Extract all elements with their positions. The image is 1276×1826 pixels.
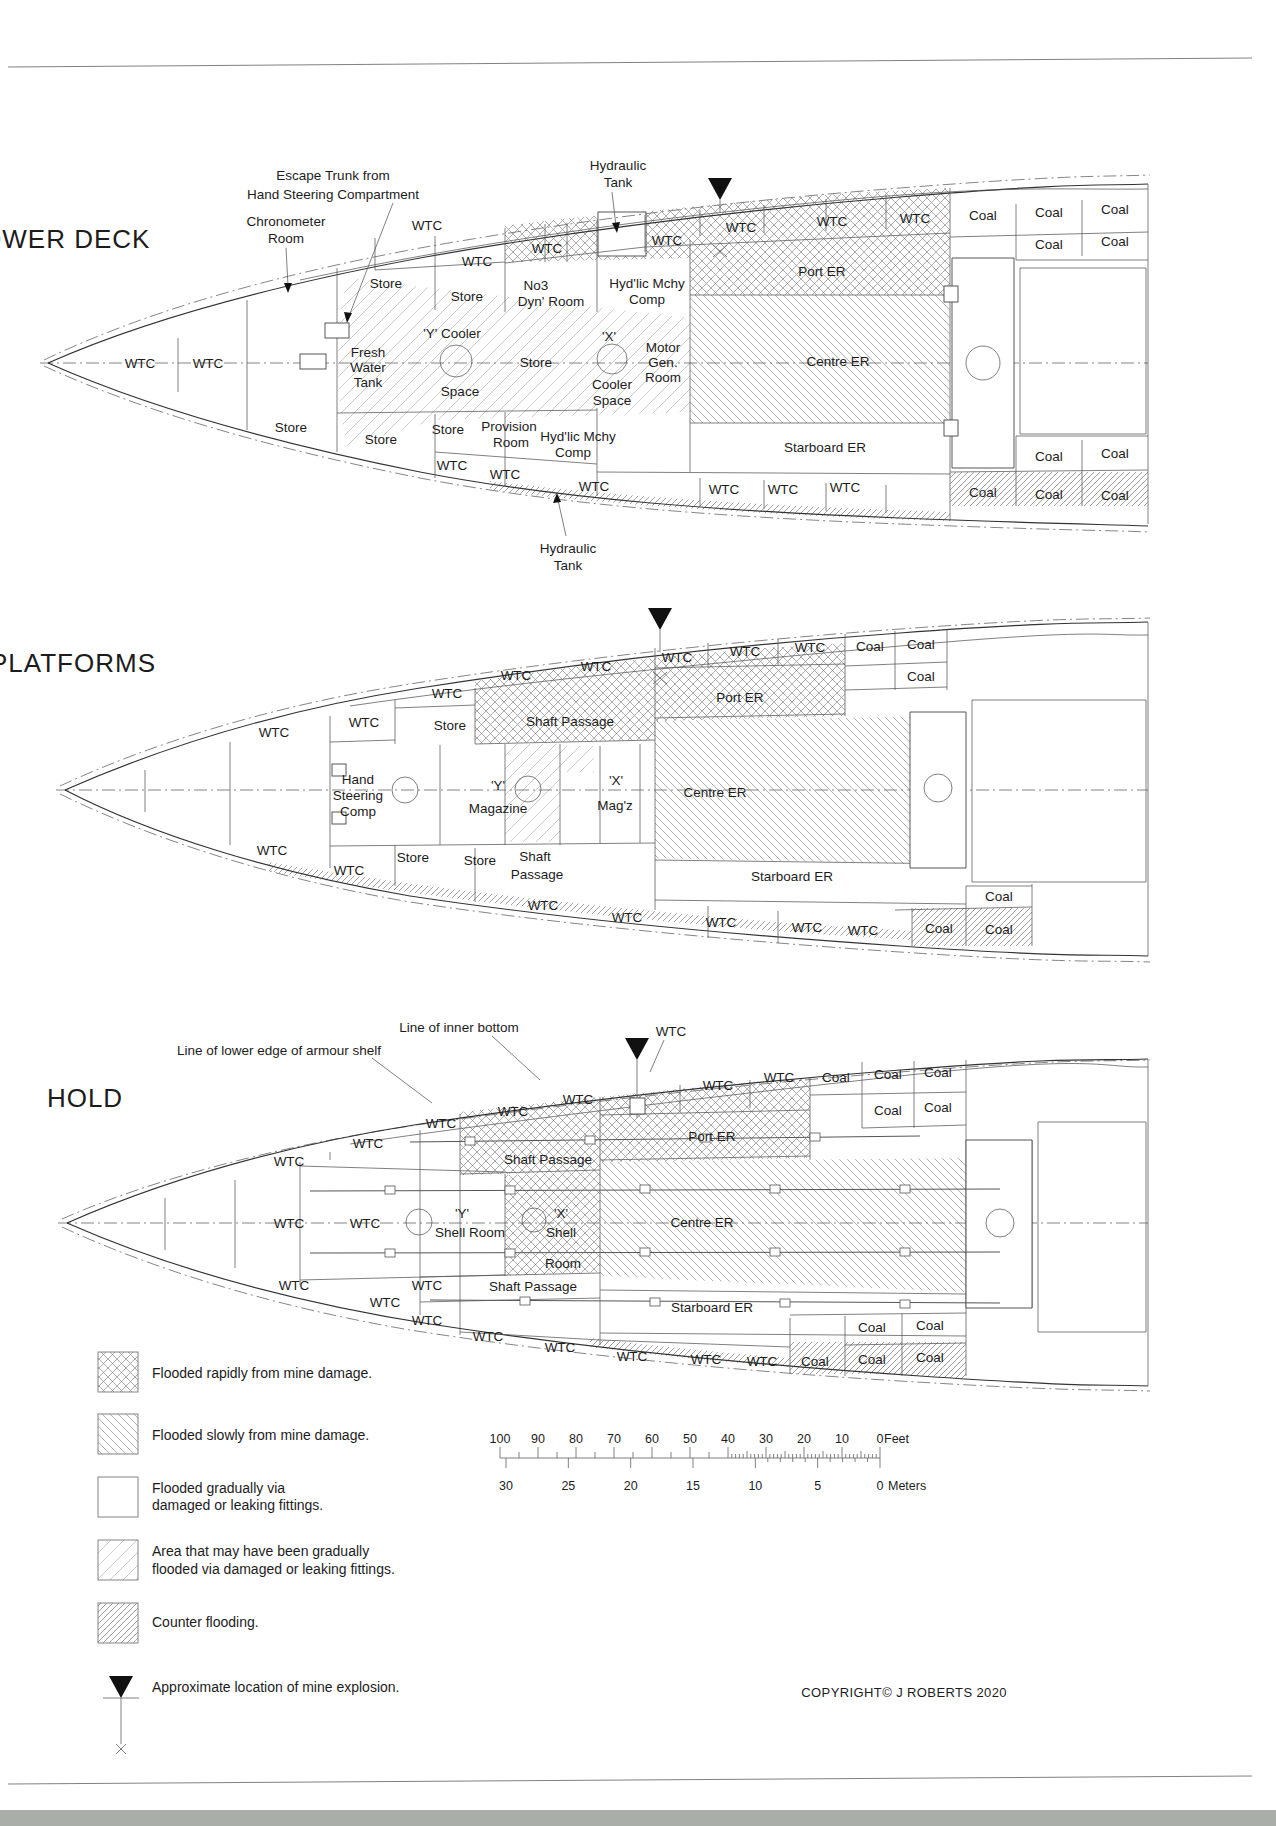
legend-label: Flooded gradually via (152, 1480, 285, 1496)
compartment-label: Starboard ER (751, 869, 833, 884)
compartment-label: Coal (925, 921, 953, 936)
escape-trunk-box (325, 323, 349, 338)
compartment-label: Magazine (469, 801, 528, 816)
compartment-label: Store (365, 432, 397, 447)
compartment-label: WTC (795, 640, 826, 655)
compartment-label: Fresh (351, 345, 386, 360)
compartment-label: Hyd'lic Mchy (609, 276, 685, 291)
scanned-diagram-page: A SERIES OF UNFORTUNATE EVENTS (0, 0, 1276, 1826)
compartment-label: Shaft Passage (504, 1152, 592, 1167)
legend-label: Counter flooding. (152, 1614, 259, 1630)
copyright-text: COPYRIGHT© J ROBERTS 2020 (801, 1685, 1007, 1700)
compartment-label: Passage (511, 867, 564, 882)
compartment-label: Mag'z (597, 798, 633, 813)
compartment-label: Hyd'lic Mchy (540, 429, 616, 444)
compartment-label: Centre ER (670, 1215, 733, 1230)
compartment-label: WTC (426, 1116, 457, 1131)
ship-deck-flooding-diagram: LOWER DECKEscape Trunk fromHand Steering… (0, 0, 1276, 1826)
compartment-label: 'X' (602, 329, 616, 344)
compartment-label: Coal (924, 1100, 952, 1115)
compartment-label: WTC (730, 644, 761, 659)
legend-swatch-flooded-rapidly (98, 1352, 138, 1392)
compartment-label: No3 (524, 278, 549, 293)
scale-feet-tick-label: 50 (683, 1432, 697, 1446)
compartment-label: WTC (473, 1329, 504, 1344)
compartment-label: WTC (353, 1136, 384, 1151)
compartment-label: Coal (856, 639, 884, 654)
compartment-label: Port ER (688, 1129, 736, 1144)
compartment-label: Port ER (798, 264, 846, 279)
compartment-label: Room (645, 370, 681, 385)
compartment-label: Coal (1101, 446, 1129, 461)
compartment-label: WTC (412, 218, 443, 233)
compartment-label: WTC (563, 1092, 594, 1107)
compartment-label: WTC (437, 458, 468, 473)
compartment-label: WTC (662, 650, 693, 665)
compartment-label: Dyn' Room (518, 294, 584, 309)
legend-swatch-flooded-gradually (98, 1477, 138, 1517)
compartment-label: WTC (691, 1352, 722, 1367)
compartment-label: Coal (969, 485, 997, 500)
legend-label: Flooded rapidly from mine damage. (152, 1365, 372, 1381)
compartment-label: WTC (490, 467, 521, 482)
compartment-label: WTC (259, 725, 290, 740)
compartment-label: WTC (652, 233, 683, 248)
compartment-label: Centre ER (806, 354, 869, 369)
annotation-label: Room (268, 231, 304, 246)
scale-feet-unit: Feet (884, 1432, 910, 1446)
compartment-label: Room (493, 435, 529, 450)
compartment-label: Coal (822, 1070, 850, 1085)
compartment-label: Store (275, 420, 307, 435)
scale-meters-tick-label: 5 (814, 1479, 821, 1493)
compartment-label: WTC (830, 480, 861, 495)
compartment-label: Space (593, 393, 631, 408)
scale-meters-unit: Meters (888, 1479, 926, 1493)
scale-bar: 1009080706050403020100Feet302520151050Me… (490, 1432, 927, 1493)
compartment-label: Shaft (519, 849, 551, 864)
compartment-label: Coal (1101, 202, 1129, 217)
compartment-label: WTC (706, 915, 737, 930)
annotation-label: WTC (656, 1024, 687, 1039)
compartment-label: Hand (342, 772, 374, 787)
compartment-label: Shaft Passage (489, 1279, 577, 1294)
compartment-label: Coal (1035, 487, 1063, 502)
compartment-label: Room (545, 1256, 581, 1271)
compartment-label: Store (370, 276, 402, 291)
compartment-label: WTC (432, 686, 463, 701)
compartment-label: Store (451, 289, 483, 304)
compartment-label: Store (434, 718, 466, 733)
scale-feet-tick-label: 30 (759, 1432, 773, 1446)
compartment-label: Space (441, 384, 479, 399)
page-bottom-rule (8, 1776, 1252, 1784)
scale-meters-tick-label: 10 (748, 1479, 762, 1493)
scan-edge-strip (0, 1810, 1276, 1826)
legend-label: Approximate location of mine explosion. (152, 1679, 399, 1695)
legend-mine-marker-icon (103, 1676, 139, 1754)
scale-feet-tick-label: 70 (607, 1432, 621, 1446)
compartment-label: Comp (629, 292, 665, 307)
compartment-label: 'Y' Cooler (423, 326, 481, 341)
compartment-label: WTC (581, 659, 612, 674)
compartment-label: Coal (916, 1318, 944, 1333)
compartment-label: Shell (546, 1225, 576, 1240)
scale-feet-tick-label: 100 (490, 1432, 511, 1446)
scale-feet-tick-label: 90 (531, 1432, 545, 1446)
scale-feet-tick-label: 10 (835, 1432, 849, 1446)
compartment-label: 'X' (554, 1206, 568, 1221)
compartment-label: WTC (528, 898, 559, 913)
compartment-label: Provision (481, 419, 537, 434)
scale-meters-tick-label: 30 (499, 1479, 513, 1493)
scale-meters-tick-label: 0 (877, 1479, 884, 1493)
annotation-label: Tank (554, 558, 583, 573)
compartment-label: WTC (462, 254, 493, 269)
compartment-label: Coal (1101, 234, 1129, 249)
compartment-label: Coal (969, 208, 997, 223)
compartment-label: Starboard ER (784, 440, 866, 455)
compartment-label: Coal (801, 1354, 829, 1369)
compartment-label: Port ER (716, 690, 764, 705)
compartment-label: Coal (874, 1067, 902, 1082)
scale-feet-tick-label: 60 (645, 1432, 659, 1446)
compartment-label: WTC (274, 1216, 305, 1231)
compartment-label: Coal (1101, 488, 1129, 503)
compartment-label: Coal (858, 1352, 886, 1367)
